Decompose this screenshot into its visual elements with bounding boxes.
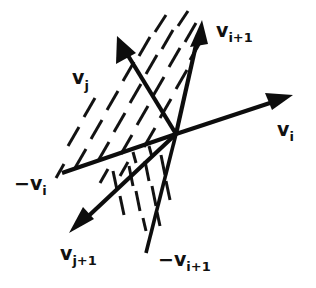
vector-diagram-canvas: vi vi+1 −vi −vi+1 vj vj+1 bbox=[0, 0, 316, 288]
vector-line-v-j-plus-1 bbox=[80, 134, 176, 224]
label-neg-v-i-plus-1: −vi+1 bbox=[158, 248, 211, 274]
vector-line-v-j bbox=[124, 49, 176, 134]
arrowhead-v-i-plus-1 bbox=[190, 20, 208, 47]
vector-diagram-figure: vi vi+1 −vi −vi+1 vj vj+1 bbox=[0, 0, 316, 288]
label-v-j-plus-1: vj+1 bbox=[60, 242, 97, 268]
vector-line-v-i bbox=[176, 99, 282, 134]
label-v-i-plus-1: vi+1 bbox=[216, 19, 253, 45]
arrowhead-v-j-plus-1 bbox=[69, 207, 94, 233]
hatch-upper-wedge bbox=[56, 11, 201, 183]
label-neg-v-i: −vi bbox=[14, 172, 47, 198]
vector-line-neg-v-i bbox=[62, 134, 176, 173]
arrowhead-v-i bbox=[265, 93, 293, 110]
label-v-i: vi bbox=[277, 118, 294, 144]
label-v-j: vj bbox=[72, 66, 89, 93]
